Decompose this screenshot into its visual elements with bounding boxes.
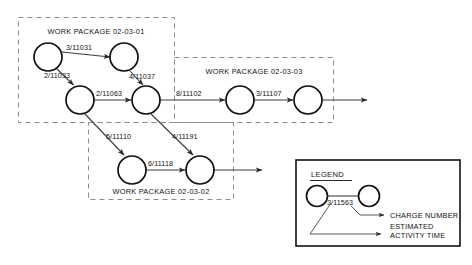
- activity-node-3[interactable]: [66, 86, 94, 114]
- activity-node-2[interactable]: [110, 43, 138, 71]
- network-diagram-canvas: WORK PACKAGE 02-03-01 WORK PACKAGE 02-03…: [0, 0, 472, 265]
- edge-n1-n2: [62, 52, 110, 57]
- activity-node-7[interactable]: [118, 156, 146, 184]
- edge-label-n2-n4: 4/11037: [129, 72, 155, 81]
- edge-label-n4-n5: 8/11102: [176, 89, 202, 98]
- activity-node-4[interactable]: [132, 86, 160, 114]
- legend-note-estimated: ESTIMATED: [390, 222, 434, 231]
- work-package-label-02-03-01: WORK PACKAGE 02-03-01: [47, 27, 144, 36]
- activity-node-8[interactable]: [186, 156, 214, 184]
- legend-title: LEGEND: [311, 170, 344, 179]
- edge-label-n5-n6: 3/11107: [256, 89, 282, 98]
- network-diagram-svg: WORK PACKAGE 02-03-01 WORK PACKAGE 02-03…: [0, 0, 472, 265]
- legend-sample-node-start: [307, 186, 328, 207]
- edge-label-n7-n8: 6/11118: [148, 159, 173, 168]
- edge-label-n4-n8: 4/11191: [172, 132, 198, 141]
- legend-note-charge-number: CHARGE NUMBER: [390, 211, 458, 220]
- activity-node-5[interactable]: [226, 86, 254, 114]
- activity-node-6[interactable]: [294, 86, 322, 114]
- legend-sample-node-end: [359, 186, 380, 207]
- activity-node-1[interactable]: [34, 43, 62, 71]
- edge-label-n3-n7: 5/11110: [106, 132, 131, 141]
- edge-label-n1-n3: 2/11033: [44, 71, 70, 80]
- work-package-label-02-03-03: WORK PACKAGE 02-03-03: [205, 67, 302, 76]
- legend-note-activity-time: ACTIVITY TIME: [390, 231, 445, 240]
- edge-label-n3-n4: 2/11063: [96, 89, 122, 98]
- work-package-label-02-03-02: WORK PACKAGE 02-03-02: [112, 187, 209, 196]
- legend-sample-label: 3/11563: [327, 198, 353, 207]
- edge-label-n1-n2: 3/11031: [66, 43, 92, 52]
